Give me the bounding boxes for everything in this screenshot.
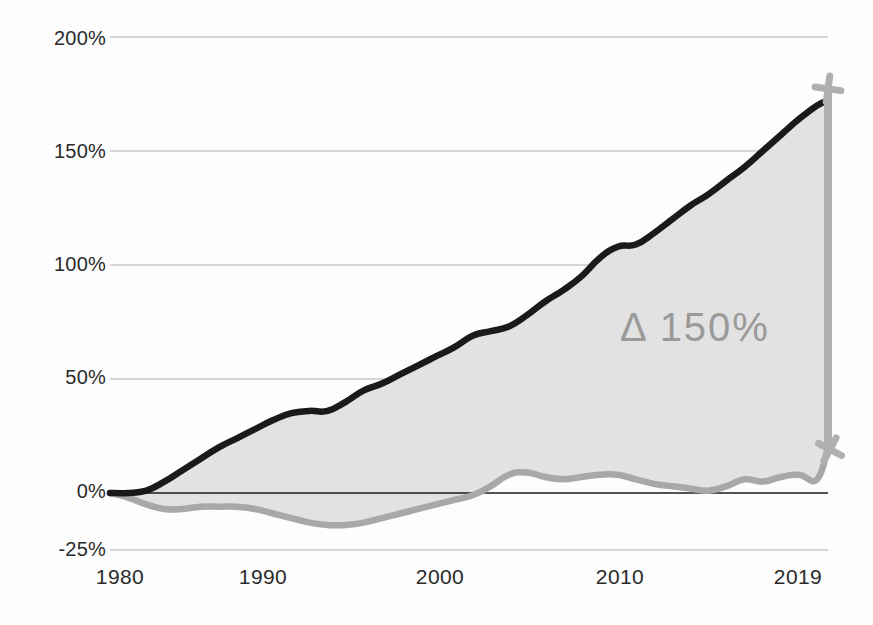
y-tick-label-200: 200% [20,27,106,50]
x-tick-label-1990: 1990 [239,565,287,589]
chart-container: 200% 150% 100% 50% 0% -25% 1980 1990 200… [0,0,873,625]
delta-cross-top-icon [815,76,841,102]
delta-annotation-label: Δ 150% [620,305,770,350]
y-tick-label-100: 100% [20,253,106,276]
x-tick-label-1980: 1980 [96,565,144,589]
x-tick-label-2019: 2019 [774,565,822,589]
y-tick-label-50: 50% [20,366,106,389]
x-tick-label-2000: 2000 [416,565,464,589]
y-tick-label-neg25: -25% [20,538,106,561]
y-tick-label-150: 150% [20,140,106,163]
x-tick-label-2010: 2010 [596,565,644,589]
y-tick-label-0: 0% [20,480,106,503]
